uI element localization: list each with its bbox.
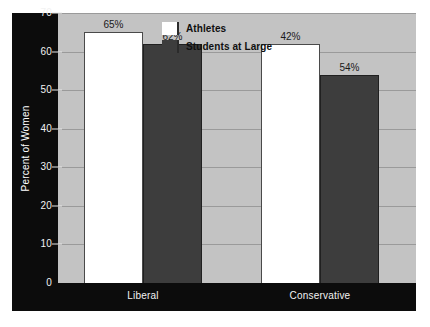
legend-item: Athletes	[162, 22, 272, 35]
x-axis-category-label: Liberal	[127, 290, 158, 301]
bar-liberal-students-at-large: 62%	[143, 44, 202, 283]
y-axis-tick-label: 70	[40, 8, 52, 18]
y-axis-tick-mark	[52, 205, 62, 206]
y-axis-tick-mark	[52, 244, 62, 245]
legend-label: Students at Large	[186, 41, 272, 52]
chart-legend: AthletesStudents at Large	[162, 22, 272, 53]
bar-value-label: 42%	[280, 31, 300, 42]
legend-label: Athletes	[186, 23, 226, 34]
bar-chart-figure: 65%62%42%54% Percent of Women 0102030405…	[0, 0, 430, 327]
gridline	[58, 13, 416, 14]
bar-value-label: 65%	[103, 19, 123, 30]
y-axis-tick-mark	[52, 51, 62, 52]
legend-item: Students at Large	[162, 40, 272, 53]
y-axis-tick-label: 60	[40, 47, 52, 57]
y-axis-tick-label: 20	[40, 201, 52, 211]
y-axis-tick-mark	[52, 13, 62, 14]
x-axis-category-label: Conservative	[290, 290, 351, 301]
y-axis-tick-label: 10	[40, 239, 52, 249]
plot-area: 65%62%42%54%	[58, 13, 416, 283]
legend-swatch	[162, 40, 179, 53]
bar-value-label: 54%	[339, 62, 359, 73]
y-axis-tick-label: 50	[40, 85, 52, 95]
y-axis-tick-label: 40	[40, 124, 52, 134]
x-axis-panel	[12, 283, 416, 311]
y-axis-tick-mark	[52, 167, 62, 168]
y-axis-tick-label: 30	[40, 162, 52, 172]
bar-conservative-athletes: 42%	[261, 44, 320, 283]
bar-conservative-students-at-large: 54%	[320, 75, 379, 283]
legend-swatch	[162, 22, 179, 35]
y-axis-tick-label: 0	[46, 278, 52, 288]
bar-liberal-athletes: 65%	[84, 32, 143, 283]
y-axis-tick-mark	[52, 128, 62, 129]
y-axis-tick-mark	[52, 90, 62, 91]
